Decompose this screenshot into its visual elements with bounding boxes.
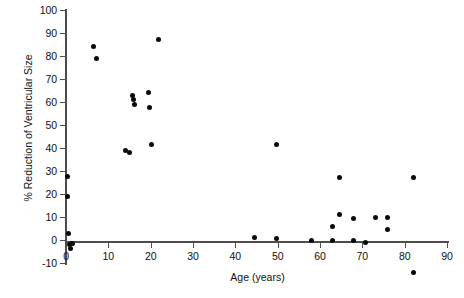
- x-tick-40: [235, 243, 236, 248]
- x-tick-label-70: 70: [357, 250, 368, 262]
- data-point: [385, 227, 390, 232]
- y-tick-80: [60, 56, 65, 57]
- y-tick-label-0: 0: [51, 234, 57, 246]
- x-axis-title: Age (years): [66, 271, 449, 283]
- data-point: [411, 175, 416, 180]
- y-tick-label-50: 50: [46, 119, 57, 131]
- data-point: [330, 224, 335, 229]
- data-point: [156, 37, 161, 42]
- y-tick-label-60: 60: [46, 96, 57, 108]
- x-tick-50: [278, 243, 279, 248]
- x-tick-label-90: 90: [441, 250, 452, 262]
- data-point: [66, 231, 71, 236]
- data-point: [94, 56, 99, 61]
- y-tick--10: [60, 263, 65, 264]
- data-point: [330, 238, 335, 243]
- data-point: [132, 102, 137, 107]
- data-point: [351, 238, 356, 243]
- x-tick-label-50: 50: [272, 250, 283, 262]
- y-tick-label--10: -10: [42, 257, 57, 269]
- data-point: [127, 150, 132, 155]
- x-tick-80: [405, 243, 406, 248]
- x-tick-label-20: 20: [145, 250, 156, 262]
- y-tick-label-70: 70: [46, 73, 57, 85]
- data-point: [363, 240, 368, 245]
- x-tick-label-80: 80: [399, 250, 410, 262]
- data-point: [385, 215, 390, 220]
- y-tick-10: [60, 217, 65, 218]
- data-point: [274, 142, 279, 147]
- y-tick-label-40: 40: [46, 142, 57, 154]
- x-tick-label-30: 30: [187, 250, 198, 262]
- y-tick-50: [60, 125, 65, 126]
- data-point: [373, 215, 378, 220]
- y-tick-label-80: 80: [46, 50, 57, 62]
- data-point: [70, 241, 75, 246]
- y-tick-70: [60, 79, 65, 80]
- data-point: [337, 212, 342, 217]
- data-point: [68, 246, 73, 251]
- data-point: [149, 142, 154, 147]
- x-tick-30: [193, 243, 194, 248]
- plot-area: 0102030405060708090 10090807060504030201…: [0, 0, 464, 298]
- y-tick-label-100: 100: [40, 4, 57, 16]
- x-tick-label-10: 10: [103, 250, 114, 262]
- data-point: [65, 174, 70, 179]
- y-tick-40: [60, 148, 65, 149]
- data-point: [65, 194, 70, 199]
- y-tick-0: [60, 240, 65, 241]
- x-tick-60: [320, 243, 321, 248]
- data-point: [147, 105, 152, 110]
- data-point: [91, 44, 96, 49]
- data-point: [351, 216, 356, 221]
- y-tick-label-90: 90: [46, 27, 57, 39]
- x-tick-label-60: 60: [314, 250, 325, 262]
- scatter-plot-figure: 0102030405060708090 10090807060504030201…: [0, 0, 464, 298]
- y-tick-60: [60, 102, 65, 103]
- data-point: [337, 175, 342, 180]
- y-tick-label-20: 20: [46, 188, 57, 200]
- y-tick-label-30: 30: [46, 165, 57, 177]
- data-point: [309, 238, 314, 243]
- x-tick-label-40: 40: [230, 250, 241, 262]
- data-point: [146, 90, 151, 95]
- y-tick-label-10: 10: [46, 211, 57, 223]
- x-tick-20: [151, 243, 152, 248]
- x-axis-line: [66, 241, 449, 243]
- data-point: [252, 235, 257, 240]
- y-tick-30: [60, 171, 65, 172]
- y-axis-line: [65, 9, 67, 265]
- y-axis-title: % Reduction of Ventricular Size: [22, 8, 34, 248]
- x-tick-label-0: 0: [63, 250, 69, 262]
- y-tick-100: [60, 10, 65, 11]
- y-tick-90: [60, 33, 65, 34]
- x-tick-90: [447, 243, 448, 248]
- x-tick-10: [108, 243, 109, 248]
